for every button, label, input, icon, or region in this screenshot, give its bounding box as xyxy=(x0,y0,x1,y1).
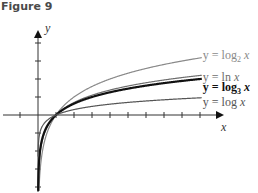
curve-label: y = log x xyxy=(203,95,246,109)
y-axis-label: y xyxy=(44,21,51,35)
curve-1 xyxy=(38,75,202,191)
log-functions-chart: y = log2 xy = ln xy = log3 xy = log x x … xyxy=(0,0,258,193)
curve-labels: y = log2 xy = ln xy = log3 xy = log x xyxy=(203,48,250,109)
curve-label: y = log2 x xyxy=(203,48,250,64)
curve-label: y = log3 x xyxy=(203,80,250,96)
curves xyxy=(38,58,202,191)
curve-2 xyxy=(38,79,202,191)
x-axis-label: x xyxy=(220,120,227,134)
axes xyxy=(3,32,222,192)
